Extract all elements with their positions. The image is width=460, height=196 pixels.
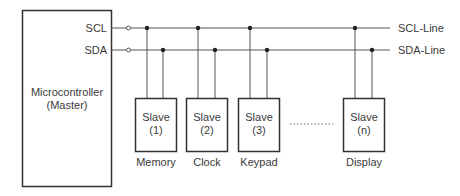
slave-index: (3): [252, 124, 265, 136]
junction-dot-icon: [370, 48, 374, 52]
slave-block-1: Slave (1) Memory: [136, 99, 177, 169]
slave-index: (1): [149, 124, 162, 136]
junction-dot-icon: [353, 26, 357, 30]
junction-dot-icon: [248, 26, 252, 30]
slave-title: Slave: [350, 111, 378, 123]
master-pin-sda: SDA: [84, 44, 107, 56]
slave-block-n: Slave (n) Display: [344, 99, 385, 169]
junction-dot-icon: [196, 26, 200, 30]
scl-terminal-icon: [127, 26, 131, 30]
slave-block-3: Slave (3) Keypad: [239, 99, 280, 169]
master-title: Microcontroller: [31, 86, 103, 98]
slave-index: (2): [200, 124, 213, 136]
slave-title: Slave: [193, 111, 221, 123]
scl-line-label: SCL-Line: [398, 22, 444, 34]
slave-label: Memory: [136, 156, 176, 168]
slave-title: Slave: [142, 111, 170, 123]
slave-label: Clock: [193, 156, 221, 168]
slave-index: (n): [357, 124, 370, 136]
master-subtitle: (Master): [47, 99, 88, 111]
slave-label: Keypad: [240, 156, 277, 168]
sda-terminal-icon: [127, 48, 131, 52]
slave-block-2: Slave (2) Clock: [187, 99, 228, 169]
junction-dot-icon: [161, 48, 165, 52]
slave-connections: [147, 28, 372, 98]
master-block: SCL SDA Microcontroller (Master): [23, 11, 112, 187]
junction-dot-icon: [213, 48, 217, 52]
junction-dots: [145, 26, 374, 52]
master-pin-scl: SCL: [86, 22, 107, 34]
slave-title: Slave: [245, 111, 273, 123]
sda-line-label: SDA-Line: [398, 44, 445, 56]
junction-dot-icon: [145, 26, 149, 30]
i2c-bus-diagram: SCL SDA Microcontroller (Master) SCL-Lin…: [0, 0, 460, 196]
junction-dot-icon: [265, 48, 269, 52]
slave-label: Display: [346, 156, 383, 168]
